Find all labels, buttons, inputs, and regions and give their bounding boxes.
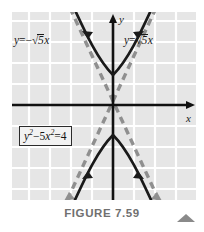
asymptote-right-label: y=√5x xyxy=(124,33,153,46)
x-axis xyxy=(12,101,195,109)
caption-row: FIGURE 7.59 xyxy=(0,203,204,232)
asymptote-right-radical-group: √5 xyxy=(136,33,148,46)
asymptote-left-radicand: 5 xyxy=(37,34,44,47)
asymptote-left-variable: x xyxy=(44,34,49,46)
triangle-up-icon xyxy=(177,214,195,222)
figure-caption: FIGURE 7.59 xyxy=(0,207,204,219)
asymptote-right-variable: x xyxy=(148,34,153,46)
equation-callout-box: y2−5x2=4 xyxy=(19,126,72,146)
asymptote-right-radicand: 5 xyxy=(141,34,148,47)
x-axis-label: x xyxy=(186,113,191,124)
asymptote-left-radical-group: √5 xyxy=(32,33,44,46)
figure-container: y=−√5x y=√5x y x y2−5x2=4 FIGURE 7.59 xyxy=(0,0,204,232)
equation-rhs: 4 xyxy=(61,130,67,142)
asymptote-left-label: y=−√5x xyxy=(14,33,49,46)
y-axis-label: y xyxy=(119,14,124,25)
